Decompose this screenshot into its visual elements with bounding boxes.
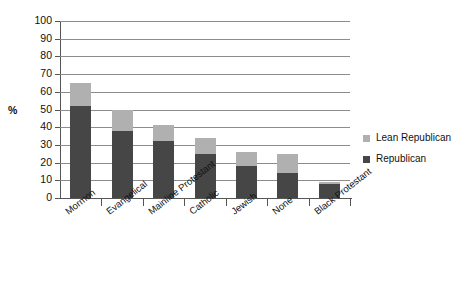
legend-item-republican: Republican xyxy=(363,154,471,164)
legend-label-republican: Republican xyxy=(376,154,426,164)
legend-label-lean-republican: Lean Republican xyxy=(376,133,451,143)
y-axis-tick-label: 30 xyxy=(18,139,52,150)
bar-segment-lean-republican xyxy=(236,152,257,166)
bar-evangelical xyxy=(112,110,133,199)
legend-swatch-icon-republican xyxy=(363,156,370,163)
y-axis-tick-label: 0 xyxy=(18,192,52,203)
x-axis-tick-mark xyxy=(226,199,227,206)
y-axis-tick-label: 100 xyxy=(18,15,52,26)
bar-none xyxy=(277,154,298,198)
x-axis-tick-mark xyxy=(267,199,268,206)
legend-swatch-icon-lean-republican xyxy=(363,135,370,142)
bar-segment-lean-republican xyxy=(153,125,174,141)
y-axis-tick-label: 10 xyxy=(18,174,52,185)
bar-segment-lean-republican xyxy=(195,138,216,154)
bar-mormon xyxy=(70,83,91,198)
bar-segment-lean-republican xyxy=(277,154,298,173)
bar-segment-lean-republican xyxy=(70,83,91,106)
y-axis-tick-label: 80 xyxy=(18,50,52,61)
x-axis-tick-mark xyxy=(143,199,144,206)
legend-item-lean-republican: Lean Republican xyxy=(363,133,471,143)
y-axis-tick-label: 50 xyxy=(18,104,52,115)
x-axis-tick-mark xyxy=(101,199,102,206)
bar-segment-republican xyxy=(70,106,91,198)
bar-jewish xyxy=(236,152,257,198)
x-axis-tick-mark xyxy=(350,199,351,206)
x-axis-tick-mark xyxy=(184,199,185,206)
y-axis-tick-label: 90 xyxy=(18,33,52,44)
y-axis-tick-label: 60 xyxy=(18,86,52,97)
y-axis-tick-label: 70 xyxy=(18,68,52,79)
bar-chart: % 1009080706050403020100 MormonEvangelic… xyxy=(0,0,472,289)
x-axis-tick-mark xyxy=(309,199,310,206)
y-axis-tick-label: 20 xyxy=(18,157,52,168)
y-axis-tick-label: 40 xyxy=(18,121,52,132)
chart-legend: Lean Republican Republican xyxy=(363,133,471,175)
bar-segment-lean-republican xyxy=(112,110,133,131)
y-axis-title: % xyxy=(8,104,17,116)
